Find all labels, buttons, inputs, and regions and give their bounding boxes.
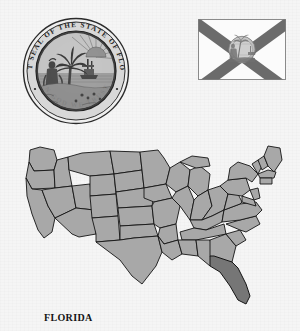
us-map (24, 144, 290, 310)
map-state-florida-highlight (210, 256, 250, 304)
map-states (26, 146, 282, 284)
page-title: FLORIDA (44, 312, 93, 323)
state-seal: GREAT SEAL OF THE STATE OF FLORIDA IN GO… (22, 17, 130, 125)
page-root: GREAT SEAL OF THE STATE OF FLORIDA IN GO… (0, 0, 300, 331)
state-flag (198, 19, 286, 80)
